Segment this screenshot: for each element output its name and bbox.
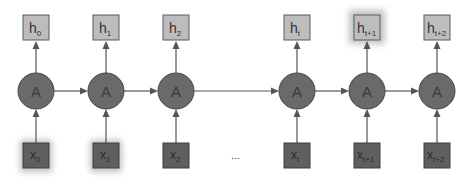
timestep-2: h2 A x2 xyxy=(158,15,194,168)
cell-label-2: A xyxy=(171,83,181,100)
cell-label-t: A xyxy=(292,83,302,100)
cell-label-t-plus-2: A xyxy=(432,83,442,100)
timestep-t: ht A xt xyxy=(279,15,315,168)
cell-label-t-plus-1: A xyxy=(362,83,372,100)
cell-label-0: A xyxy=(31,83,41,100)
cell-label-1: A xyxy=(101,83,111,100)
timestep-t-plus-1: ht+1 A xt+1 xyxy=(349,15,385,168)
timestep-t-plus-2: ht+2 A xt+2 xyxy=(419,15,455,168)
timestep-1: h1 A x1 xyxy=(88,15,124,168)
rnn-diagram: h0 A x0 h1 A x1 h2 A x2 ... xyxy=(0,0,472,179)
timestep-0: h0 A x0 xyxy=(18,15,54,168)
ellipsis: ... xyxy=(231,149,240,161)
